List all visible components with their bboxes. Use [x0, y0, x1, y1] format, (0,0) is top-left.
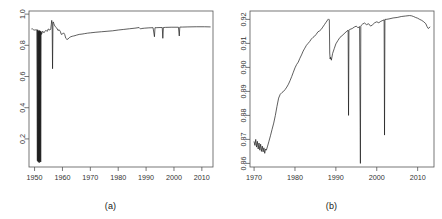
y-tick-label: 0.87 [239, 132, 248, 146]
x-tick-label: 1990 [138, 173, 154, 182]
y-tick-label: 0.6 [18, 72, 27, 82]
x-tick-label: 1950 [27, 173, 43, 182]
x-tick-label: 2010 [194, 173, 210, 182]
y-tick-label: 0.2 [18, 134, 27, 144]
y-tick-label: 0.91 [239, 36, 248, 50]
x-tick-label: 1970 [82, 173, 98, 182]
y-tick-label: 0.90 [239, 60, 248, 74]
x-tick-label: 2000 [166, 173, 182, 182]
x-tick-label: 1990 [328, 173, 344, 182]
y-tick-label: 1.0 [18, 9, 27, 19]
x-tick-label: 1980 [287, 173, 303, 182]
panel-a-caption: (a) [0, 201, 221, 211]
y-tick-label: 0.92 [239, 12, 248, 26]
panel-b: 197019801990200020100.860.870.880.890.90… [221, 0, 442, 219]
y-tick-label: 0.86 [239, 156, 248, 170]
y-tick-label: 0.8 [18, 40, 27, 50]
panel-a: 19501960197019801990200020100.20.40.60.8… [0, 0, 221, 219]
plot-frame [29, 11, 213, 167]
x-tick-label: 1980 [110, 173, 126, 182]
y-tick-label: 0.88 [239, 108, 248, 122]
panel-b-caption: (b) [221, 201, 442, 211]
x-tick-label: 2010 [410, 173, 426, 182]
x-tick-label: 1970 [246, 173, 262, 182]
x-tick-label: 2000 [369, 173, 385, 182]
y-tick-label: 0.89 [239, 84, 248, 98]
panel-b-plot: 197019801990200020100.860.870.880.890.90… [221, 0, 442, 219]
figure-container: 19501960197019801990200020100.20.40.60.8… [0, 0, 442, 219]
y-tick-label: 0.4 [18, 103, 27, 113]
data-line [254, 16, 430, 164]
data-line [32, 20, 210, 162]
x-tick-label: 1960 [54, 173, 70, 182]
panel-a-plot: 19501960197019801990200020100.20.40.60.8… [0, 0, 221, 219]
plot-frame [250, 11, 434, 167]
